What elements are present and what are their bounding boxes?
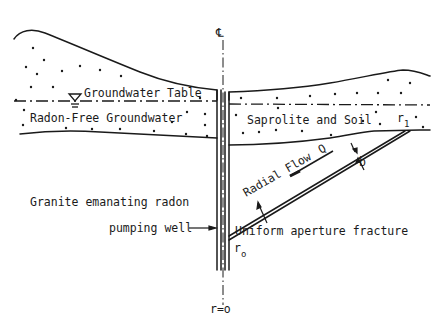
fracture-flow-diagram: ℄: [0, 0, 448, 326]
fracture-label: Uniform aperture fracture: [235, 224, 408, 238]
centerline-symbol: ℄: [215, 26, 224, 40]
r1-label: r: [397, 111, 404, 125]
aperture-label: b: [359, 155, 366, 169]
granite-label: Granite emanating radon: [30, 195, 189, 209]
water-table-marker-icon: [69, 94, 81, 107]
left-saprolite-base: [20, 131, 217, 138]
radon-free-groundwater-label: Radon-Free Groundwater: [30, 111, 182, 125]
r0-label: r: [234, 241, 241, 255]
saprolite-and-soil-label: Saprolite and Soil: [247, 113, 372, 127]
r0-subscript: o: [241, 249, 246, 259]
right-ground-surface: [229, 70, 430, 100]
r-zero-label: r=o: [210, 302, 231, 316]
r1-subscript: 1: [404, 119, 409, 129]
groundwater-table-label: Groundwater Table: [84, 86, 202, 100]
pumping-well-label: pumping well: [109, 221, 192, 235]
groundwater-table-line-right: [229, 104, 430, 105]
right-saprolite-stipple: [235, 79, 424, 136]
pumping-well-arrow: [189, 226, 216, 230]
